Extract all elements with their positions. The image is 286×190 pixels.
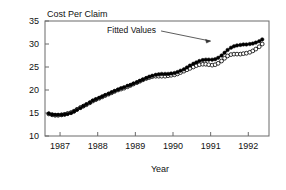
x-axis-tick-label: 1991	[201, 141, 221, 151]
x-axis-tick-label: 1992	[238, 141, 258, 151]
y-axis-tick-label: 30	[29, 39, 39, 49]
annotation-text-fitted-values: Fitted Values	[107, 25, 156, 35]
data-point-fitted	[223, 51, 227, 55]
data-point-fitted	[47, 112, 51, 116]
data-point-fitted	[260, 38, 264, 42]
chart-figure: Cost Per Claim 101520253035 198719881989…	[0, 0, 286, 190]
data-point-fitted	[66, 112, 70, 116]
y-axis-tick-label: 10	[29, 131, 39, 141]
x-axis-tick-label: 1990	[163, 141, 183, 151]
data-point-fitted	[226, 48, 230, 52]
data-point-fitted	[160, 72, 164, 76]
y-axis-tick-label: 35	[29, 16, 39, 26]
annotation-arrowhead-icon	[206, 39, 211, 43]
data-point-fitted	[103, 93, 107, 97]
x-axis-ticks	[60, 132, 248, 136]
y-axis-tick-labels: 101520253035	[29, 16, 39, 141]
data-point-fitted	[198, 59, 202, 63]
annotation-leader-line	[161, 31, 210, 41]
data-point-fitted	[141, 78, 145, 82]
data-point-fitted	[245, 43, 249, 47]
data-point-fitted	[254, 41, 258, 45]
y-axis-tick-label: 25	[29, 62, 39, 72]
chart-annotations: Fitted Values	[107, 25, 210, 43]
data-point-fitted	[169, 72, 173, 76]
data-point-fitted	[85, 103, 89, 107]
data-point-fitted	[179, 69, 183, 73]
data-point-fitted	[113, 89, 117, 93]
x-axis-tick-label: 1987	[50, 141, 70, 151]
chart-canvas: 101520253035 198719881989199019911992 Fi…	[0, 0, 286, 190]
x-axis-title: Year	[151, 164, 169, 174]
data-point-fitted	[122, 85, 126, 89]
x-axis-tick-label: 1988	[88, 141, 108, 151]
data-point-fitted	[151, 74, 155, 78]
data-point-fitted	[188, 64, 192, 68]
data-point-fitted	[216, 56, 220, 60]
plot-frame	[45, 21, 269, 136]
data-point-fitted	[132, 82, 136, 86]
data-point-fitted	[94, 97, 98, 101]
y-axis-ticks	[45, 21, 49, 136]
data-point-fitted	[207, 58, 211, 62]
data-point-fitted	[235, 44, 239, 48]
y-axis-tick-label: 20	[29, 85, 39, 95]
data-point-fitted	[56, 113, 60, 117]
series-points-observed	[47, 42, 264, 117]
data-point-fitted	[75, 108, 79, 112]
x-axis-tick-label: 1989	[125, 141, 145, 151]
data-point-observed	[260, 42, 264, 46]
y-axis-tick-label: 15	[29, 108, 39, 118]
x-axis-tick-labels: 198719881989199019911992	[50, 141, 258, 151]
data-point-fitted	[220, 54, 224, 58]
